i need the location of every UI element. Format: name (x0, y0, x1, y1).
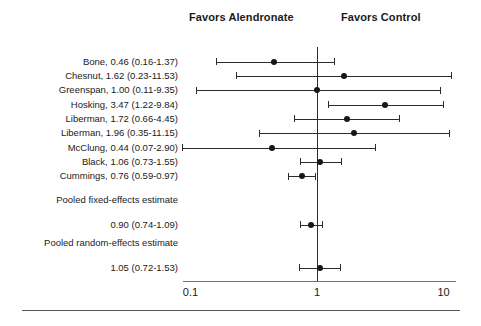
x-axis-tick-label: 10 (437, 286, 449, 298)
ci-cap-lower (216, 58, 217, 65)
header-favors-control: Favors Control (341, 11, 421, 23)
confidence-interval-line (294, 119, 399, 120)
ci-cap-lower (299, 264, 300, 271)
study-label: Greenspan, 1.00 (0.11-9.35) (59, 85, 178, 95)
ci-cap-lower (259, 130, 260, 137)
effect-estimate-marker (341, 73, 347, 79)
confidence-interval-line (288, 176, 315, 177)
study-label: Black, 1.06 (0.73-1.55) (82, 157, 178, 167)
confidence-interval-line (300, 225, 321, 226)
ci-cap-lower (300, 158, 301, 165)
x-axis-tick-label: 0.1 (183, 286, 198, 298)
ci-cap-lower (288, 173, 289, 180)
study-label: Liberman, 1.72 (0.66-4.45) (66, 114, 178, 124)
ci-cap-lower (196, 87, 197, 94)
confidence-interval-line (299, 268, 340, 269)
header-favors-alendronate: Favors Alendronate (189, 11, 294, 23)
x-axis-tick-label: 1 (314, 286, 320, 298)
ci-cap-upper (322, 221, 323, 228)
effect-estimate-marker (314, 87, 320, 93)
ci-cap-upper (451, 72, 452, 79)
ci-cap-lower (236, 72, 237, 79)
effect-estimate-marker (382, 102, 388, 108)
confidence-interval-line (300, 162, 341, 163)
pooled-estimate-title: Pooled random-effects estimate (44, 238, 178, 248)
study-label: Bone, 0.46 (0.16-1.37) (83, 57, 178, 67)
confidence-interval-line (216, 62, 334, 63)
ci-cap-lower (294, 115, 295, 122)
ci-cap-upper (340, 264, 341, 271)
ci-cap-upper (341, 158, 342, 165)
x-axis-line (183, 281, 456, 282)
study-label: Cummings, 0.76 (0.59-0.97) (60, 171, 178, 181)
plot-area: 0.1110 (0, 0, 481, 326)
effect-estimate-marker (299, 173, 305, 179)
ci-cap-lower (300, 221, 301, 228)
study-label: McClung, 0.44 (0.07-2.90) (68, 143, 178, 153)
ci-cap-lower (328, 101, 329, 108)
effect-estimate-marker (317, 159, 323, 165)
effect-estimate-marker (344, 116, 350, 122)
pooled-estimate-value: 1.05 (0.72-1.53) (110, 263, 178, 273)
bottom-rule (22, 310, 460, 311)
effect-estimate-marker (271, 59, 277, 65)
confidence-interval-line (182, 148, 375, 149)
effect-estimate-marker (317, 265, 323, 271)
pooled-estimate-value: 0.90 (0.74-1.09) (110, 220, 178, 230)
confidence-interval-line (259, 133, 449, 134)
confidence-interval-line (328, 105, 443, 106)
forest-plot: Favors Alendronate Favors Control Bone, … (0, 0, 481, 326)
ci-cap-upper (315, 173, 316, 180)
ci-cap-upper (375, 144, 376, 151)
ci-cap-upper (449, 130, 450, 137)
ci-cap-upper (334, 58, 335, 65)
null-effect-line (317, 47, 318, 281)
confidence-interval-line (196, 90, 440, 91)
ci-cap-upper (443, 101, 444, 108)
confidence-interval-line (236, 76, 451, 77)
effect-estimate-marker (308, 222, 314, 228)
effect-estimate-marker (351, 130, 357, 136)
study-label: Hosking, 3.47 (1.22-9.84) (71, 100, 178, 110)
ci-cap-lower (182, 144, 183, 151)
ci-cap-upper (440, 87, 441, 94)
study-label: Liberman, 1.96 (0.35-11.15) (61, 128, 178, 138)
pooled-estimate-title: Pooled fixed-effects estimate (56, 195, 178, 205)
effect-estimate-marker (269, 145, 275, 151)
study-label: Chesnut, 1.62 (0.23-11.53) (65, 71, 178, 81)
ci-cap-upper (399, 115, 400, 122)
